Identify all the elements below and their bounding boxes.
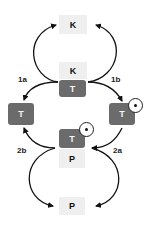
node-t-left: T <box>8 103 34 125</box>
label-2b: 2b <box>17 146 26 155</box>
arrow-2b-down <box>29 148 55 206</box>
node-p-mid: P <box>59 149 85 168</box>
arrow-1a-up <box>34 25 58 82</box>
dot-icon <box>85 128 88 131</box>
arrow-2a-up <box>92 128 122 148</box>
label-1a: 1a <box>18 75 27 84</box>
arrow-1a-down <box>24 82 58 100</box>
dot-icon <box>134 104 137 107</box>
arrow-2a-down <box>92 148 119 206</box>
arrow-1b-down <box>88 82 122 101</box>
node-t-mid: T <box>59 80 86 97</box>
label-1b: 1b <box>111 75 120 84</box>
arrow-1b-up <box>88 25 116 82</box>
node-k-top: K <box>59 15 87 34</box>
phosphate-marker-center <box>79 122 94 137</box>
phosphate-marker-right <box>128 98 143 113</box>
node-p-bottom: P <box>59 197 85 215</box>
label-2a: 2a <box>113 146 122 155</box>
node-k-mid: K <box>59 62 87 79</box>
arrow-2b-up <box>24 128 55 148</box>
